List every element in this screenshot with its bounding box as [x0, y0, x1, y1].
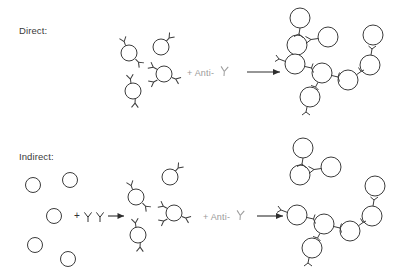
- particle-antibody-coated: [130, 218, 146, 251]
- antibody-link: [369, 46, 377, 55]
- primary-antibody-icon: [96, 212, 103, 222]
- particle-antibody-coated: [148, 62, 181, 87]
- particle-antibody-coated: [119, 36, 144, 67]
- antibody-link: [371, 197, 379, 206]
- diagram-canvas: Direct: Indirect: + Anti- + + Anti-: [0, 0, 399, 279]
- indirect-product-lattice: [277, 138, 385, 266]
- antibody-link: [306, 37, 319, 44]
- particle-antibody-coated: [153, 33, 175, 55]
- reaction-arrow-indirect-1: [108, 213, 124, 219]
- antibody-free-arm: [275, 55, 286, 62]
- primary-antibody-icon: [84, 212, 91, 222]
- particle-antibody-coated: [158, 201, 191, 226]
- antibody-free-arm: [277, 206, 288, 213]
- reaction-arrow-indirect-2: [257, 213, 283, 219]
- reagent-antibody-icon-direct: [220, 66, 228, 76]
- indirect-sensitized-group: [126, 163, 191, 252]
- direct-product-lattice: [275, 8, 383, 115]
- antibody-free-arm: [302, 107, 310, 115]
- bare-particle: [63, 173, 78, 188]
- reagent-antibody-icon-indirect: [236, 210, 244, 220]
- bare-particle: [28, 238, 43, 253]
- reaction-arrow-direct: [247, 69, 280, 75]
- direct-reactant-group: [119, 33, 181, 108]
- diagram-vectors: [0, 0, 399, 279]
- antibody-free-arm: [304, 258, 312, 266]
- indirect-bare-particles: [26, 173, 78, 267]
- bare-particle: [47, 209, 62, 224]
- particle-antibody-coated: [125, 74, 141, 107]
- bare-particle: [61, 252, 76, 267]
- bare-particle: [26, 178, 41, 193]
- particle-antibody-coated: [162, 163, 184, 185]
- antibody-link: [309, 167, 322, 174]
- particle-antibody-coated: [126, 180, 151, 211]
